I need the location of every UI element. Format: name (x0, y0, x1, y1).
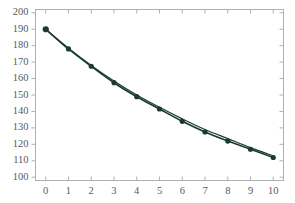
y-tick-label: 170 (0, 57, 29, 68)
chart-canvas (0, 0, 295, 203)
plot-area-border (36, 10, 284, 181)
y-tick-label: 100 (0, 172, 29, 183)
y-tick-label: 160 (0, 73, 29, 84)
x-tick-label: 10 (258, 186, 288, 197)
y-tick-label: 140 (0, 106, 29, 117)
y-tick-label: 150 (0, 90, 29, 101)
y-tick-label: 130 (0, 122, 29, 133)
y-tick-label: 180 (0, 40, 29, 51)
y-tick-label: 110 (0, 155, 29, 166)
chart-figure: 100110120130140150160170180190200 012345… (0, 0, 295, 203)
y-tick-label: 200 (0, 7, 29, 18)
plot-frame (36, 10, 284, 181)
y-tick-label: 190 (0, 24, 29, 35)
y-tick-label: 120 (0, 139, 29, 150)
